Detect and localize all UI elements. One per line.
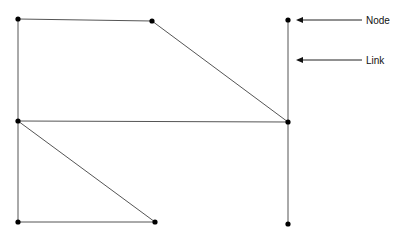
node-dot <box>15 16 20 21</box>
link-line <box>18 121 155 222</box>
node-dot <box>285 119 290 124</box>
link-line <box>18 19 152 21</box>
node-dot <box>149 18 154 23</box>
annotation-label-link: Link <box>366 55 385 66</box>
arrow-head-icon <box>296 17 303 23</box>
node-dot <box>285 17 290 22</box>
node-dot <box>15 219 20 224</box>
links-group <box>18 19 288 224</box>
annotations-group: NodeLink <box>296 15 390 66</box>
network-diagram: NodeLink <box>0 0 404 241</box>
link-line <box>152 21 288 122</box>
node-dot <box>152 219 157 224</box>
link-line <box>18 121 288 122</box>
annotation-label-node: Node <box>366 15 390 26</box>
arrow-head-icon <box>296 57 303 63</box>
node-dot <box>15 118 20 123</box>
node-dot <box>285 221 290 226</box>
